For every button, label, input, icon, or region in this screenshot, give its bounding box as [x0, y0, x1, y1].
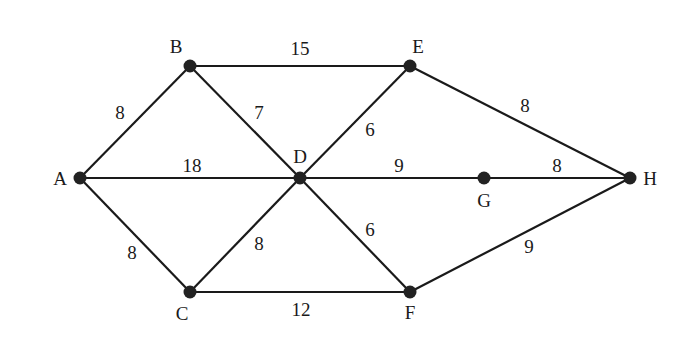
edge-weight-A-C: 8 [127, 243, 137, 262]
edge-weight-G-H: 8 [552, 156, 562, 175]
edge-weight-A-D: 18 [183, 156, 202, 175]
node-label-F: F [405, 303, 416, 322]
edges-layer [80, 66, 630, 292]
edge-E-H [410, 66, 630, 178]
edge-D-F [300, 178, 410, 292]
graph-canvas [0, 0, 686, 340]
node-C [184, 286, 197, 299]
node-H [624, 172, 637, 185]
node-B [184, 60, 197, 73]
node-D [294, 172, 307, 185]
node-label-C: C [176, 304, 189, 323]
node-label-H: H [643, 169, 657, 188]
edge-weight-B-D: 7 [254, 103, 264, 122]
node-G [478, 172, 491, 185]
node-label-D: D [293, 147, 307, 166]
node-F [404, 286, 417, 299]
node-label-A: A [53, 169, 67, 188]
edge-weight-D-F: 6 [365, 220, 375, 239]
edge-weight-E-H: 8 [520, 96, 530, 115]
edge-C-D [190, 178, 300, 292]
graph-diagram: 8188157698886129ABCDEFGH [0, 0, 686, 340]
edge-A-C [80, 178, 190, 292]
edge-weight-C-D: 8 [254, 234, 264, 253]
edge-weight-D-G: 9 [394, 156, 404, 175]
node-A [74, 172, 87, 185]
edge-B-D [190, 66, 300, 178]
node-label-B: B [170, 37, 183, 56]
edge-weight-B-E: 15 [291, 39, 310, 58]
edge-weight-D-E: 6 [365, 120, 375, 139]
edge-A-B [80, 66, 190, 178]
node-label-E: E [412, 37, 424, 56]
node-label-G: G [477, 191, 491, 210]
edge-F-H [410, 178, 630, 292]
edge-weight-A-B: 8 [115, 103, 125, 122]
edge-weight-F-H: 9 [524, 237, 534, 256]
edge-weight-C-F: 12 [292, 300, 311, 319]
node-E [404, 60, 417, 73]
